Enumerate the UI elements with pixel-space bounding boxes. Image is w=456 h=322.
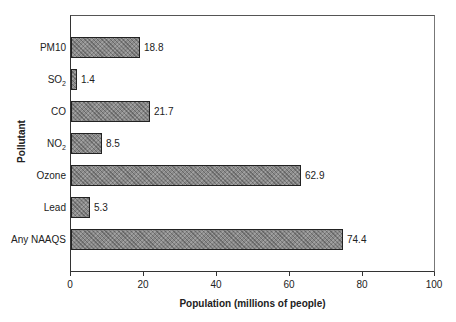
category-label-pm10: PM10	[40, 37, 66, 58]
y-axis-label: Pollutant	[16, 107, 27, 177]
x-tick	[362, 272, 363, 276]
x-axis-label: Population (millions of people)	[70, 298, 435, 309]
x-tick	[70, 272, 71, 276]
bar-so2	[71, 69, 77, 90]
x-tick	[143, 272, 144, 276]
x-tick-label: 40	[201, 279, 231, 290]
category-label-ozone: Ozone	[37, 165, 66, 186]
x-tick-label: 80	[347, 279, 377, 290]
category-label-any-naaqs: Any NAAQS	[11, 229, 66, 250]
value-label-lead: 5.3	[94, 197, 108, 218]
bar-no2	[71, 133, 102, 154]
value-label-any-naaqs: 74.4	[347, 229, 366, 250]
bar-ozone	[71, 165, 301, 186]
x-tick	[434, 272, 435, 276]
value-label-pm10: 18.8	[144, 37, 163, 58]
category-label-co: CO	[51, 101, 66, 122]
bar-any-naaqs	[71, 229, 343, 250]
bar-pm10	[71, 37, 140, 58]
category-label-so2: SO2	[48, 69, 66, 94]
plot-area: 18.8 1.4 21.7 8.5 62.9 5.3 74.4	[70, 15, 435, 272]
category-label-lead: Lead	[44, 197, 66, 218]
value-label-so2: 1.4	[81, 69, 95, 90]
category-label-no2: NO2	[47, 133, 66, 158]
bar-co	[71, 101, 150, 122]
value-label-ozone: 62.9	[305, 165, 324, 186]
value-label-no2: 8.5	[106, 133, 120, 154]
x-tick-label: 20	[128, 279, 158, 290]
x-tick-label: 100	[419, 279, 449, 290]
x-tick	[289, 272, 290, 276]
x-tick-label: 60	[274, 279, 304, 290]
x-tick-label: 0	[55, 279, 85, 290]
bar-lead	[71, 197, 90, 218]
value-label-co: 21.7	[154, 101, 173, 122]
x-tick	[216, 272, 217, 276]
